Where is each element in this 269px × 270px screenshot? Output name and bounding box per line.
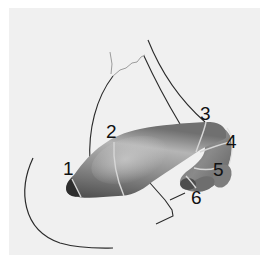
bracket-line — [150, 183, 185, 224]
segment-label-5: 5 — [213, 160, 224, 179]
segment-label-6: 6 — [191, 188, 202, 207]
segment-label-1: 1 — [63, 159, 74, 178]
diagram-canvas: 1 2 3 4 5 6 — [0, 0, 269, 270]
segment-label-3: 3 — [200, 104, 211, 123]
segment-label-4: 4 — [226, 132, 237, 151]
segment-label-2: 2 — [106, 122, 117, 141]
branch-line — [110, 52, 145, 76]
duct-line-inner — [144, 56, 180, 124]
